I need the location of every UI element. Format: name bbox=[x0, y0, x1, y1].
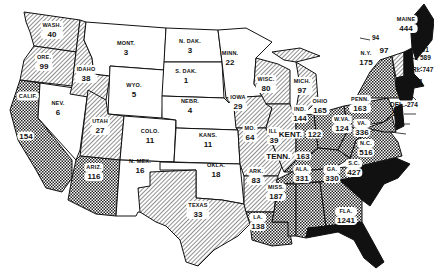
label-ala: ALA.331 bbox=[293, 165, 311, 183]
label-ore: ORE.99 bbox=[35, 53, 53, 71]
callout-mass: 589 bbox=[420, 54, 431, 61]
label-vt: 97 bbox=[378, 46, 391, 55]
callout-ri: RI.-747 bbox=[412, 66, 433, 73]
label-mo: MO.64 bbox=[243, 124, 258, 142]
label-kans: KANS.11 bbox=[199, 131, 217, 149]
label-idaho: IDAHO38 bbox=[75, 65, 98, 83]
label-okla: OKLA.18 bbox=[207, 161, 225, 179]
label-tenn: TENN. 163 bbox=[264, 152, 311, 161]
label-la: LA.138 bbox=[249, 213, 266, 231]
state-mich-up bbox=[272, 48, 320, 62]
label-wisc: WISC.80 bbox=[256, 75, 277, 93]
label-texas: TEXAS33 bbox=[186, 201, 209, 219]
label-miss: MISS.187 bbox=[266, 183, 286, 201]
label-nmex: N. MEX.16 bbox=[129, 157, 151, 175]
label-ny: N.Y.175 bbox=[357, 49, 374, 67]
callout-del: DEL.-274 bbox=[390, 101, 418, 108]
label-wyo: WYO.5 bbox=[126, 81, 141, 99]
label-va: VA.336 bbox=[353, 119, 370, 137]
label-kent: KENT. 122 bbox=[277, 130, 323, 139]
label-sdak: S. DAK.1 bbox=[175, 67, 197, 85]
callout-94: 94 bbox=[372, 34, 379, 41]
label-ndak: N. DAK.3 bbox=[179, 37, 201, 55]
label-nebr: NEBR.4 bbox=[181, 97, 199, 115]
callout-nh: 151 bbox=[418, 46, 429, 53]
label-fla: FLA.1241 bbox=[335, 207, 357, 225]
label-mont: MONT.3 bbox=[117, 39, 135, 57]
callout-nj: 622 bbox=[396, 86, 407, 93]
label-calif: CALIF. bbox=[17, 92, 39, 101]
label-ark: ARK.83 bbox=[247, 167, 265, 185]
label-ga: GA.330 bbox=[323, 165, 340, 183]
label-mich: MICH.97 bbox=[292, 77, 313, 95]
label-penn: PENN.163 bbox=[349, 95, 371, 113]
label-sc: S.C.427 bbox=[345, 159, 362, 177]
callout-conn: 441 bbox=[412, 78, 423, 85]
label-ind: IND.144 bbox=[291, 105, 308, 123]
label-ohio: OHIO165 bbox=[311, 97, 330, 115]
label-nev: NEV.6 bbox=[51, 99, 64, 117]
label-maine: MAINE444 bbox=[395, 15, 418, 33]
label-nc: N.C.516 bbox=[357, 139, 374, 157]
callout-md: 277 bbox=[392, 110, 403, 117]
label-calif-value: 154 bbox=[17, 132, 34, 141]
label-colo: COLO.11 bbox=[141, 127, 159, 145]
label-wva: W.VA.124 bbox=[332, 115, 352, 133]
label-utah: UTAH27 bbox=[90, 117, 110, 135]
label-minn: MINN.22 bbox=[222, 49, 239, 67]
label-ariz: ARIZ.116 bbox=[84, 163, 103, 181]
label-wash: WASH.40 bbox=[40, 21, 63, 39]
state-fla bbox=[306, 222, 384, 268]
label-iowa: IOWA29 bbox=[228, 93, 247, 111]
